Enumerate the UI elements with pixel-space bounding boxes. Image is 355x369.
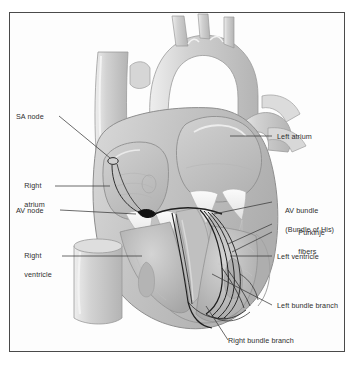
left-atrium-chamber	[176, 116, 261, 202]
label-left-atrium: Left atrium	[277, 132, 312, 141]
label-left-bundle-branch: Left bundle branch	[277, 301, 338, 310]
sinoatrial-node	[108, 158, 118, 165]
label-right-atrium-line1: Right	[24, 181, 41, 190]
label-av-node: AV node	[16, 206, 44, 215]
brachiocephalic-trunk	[172, 16, 188, 46]
left-subclavian-artery	[224, 17, 234, 48]
label-right-bundle-branch: Right bundle branch	[228, 336, 294, 345]
label-right-ventricle: Right ventricle	[16, 242, 52, 288]
heart-illustration	[0, 0, 355, 369]
right-atrium-chamber	[103, 142, 169, 220]
label-right-ventricle-line1: Right	[24, 251, 41, 260]
left-common-carotid-artery	[198, 14, 210, 39]
heart-conduction-figure: SA node Right atrium AV node Right ventr…	[0, 0, 355, 369]
azygos-vein-stub	[130, 62, 150, 89]
label-sa-node: SA node	[16, 112, 44, 121]
label-purkinje-line1: Purkinje	[298, 228, 325, 237]
label-right-ventricle-line2: ventricle	[24, 270, 51, 279]
label-av-bundle-line1: AV bundle	[285, 206, 318, 215]
label-left-ventricle: Left ventricle	[277, 252, 319, 261]
inferior-vena-cava	[74, 239, 122, 324]
